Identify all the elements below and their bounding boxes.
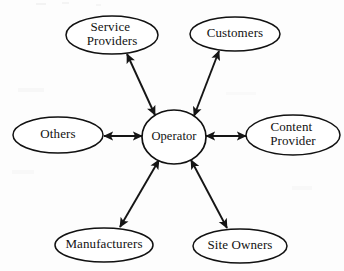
node-label-line: Others <box>40 126 75 141</box>
node-label-customers: Customers <box>207 25 264 40</box>
node-label-line: Customers <box>207 25 264 40</box>
node-label-content-provider: Content Provider <box>270 119 316 149</box>
node-label-line: Content <box>270 119 312 134</box>
diagram-canvas: Service Providers Customers Others Conte… <box>0 0 344 271</box>
node-customers[interactable]: Customers <box>190 17 280 51</box>
node-operator[interactable]: Operator <box>142 110 206 164</box>
node-label-service-providers: Service Providers <box>87 19 138 49</box>
node-label-line: Providers <box>87 33 138 48</box>
edge-operator-service-providers[interactable] <box>127 54 155 115</box>
node-label-manufacturers: Manufacturers <box>65 236 142 251</box>
node-label-others: Others <box>40 126 75 141</box>
edge-operator-manufacturers[interactable] <box>120 160 159 227</box>
node-label-line: Provider <box>270 133 316 148</box>
node-label-line: Service <box>90 19 130 34</box>
node-label-line: Operator <box>151 129 197 143</box>
node-label-line: Site Owners <box>207 237 272 252</box>
node-service-providers[interactable]: Service Providers <box>66 16 158 54</box>
node-label-operator: Operator <box>151 129 197 143</box>
edge-operator-customers[interactable] <box>194 51 219 116</box>
node-site-owners[interactable]: Site Owners <box>193 229 287 263</box>
node-manufacturers[interactable]: Manufacturers <box>55 228 153 262</box>
diagram-svg: Service Providers Customers Others Conte… <box>0 0 344 271</box>
node-others[interactable]: Others <box>13 117 103 153</box>
node-content-provider[interactable]: Content Provider <box>246 115 340 155</box>
node-label-site-owners: Site Owners <box>207 237 272 252</box>
node-label-line: Manufacturers <box>65 236 142 251</box>
edge-operator-site-owners[interactable] <box>191 160 227 228</box>
